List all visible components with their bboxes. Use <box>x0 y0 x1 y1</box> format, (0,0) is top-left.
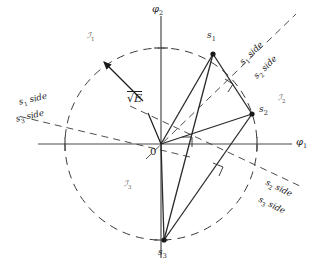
point-s1 <box>210 51 215 56</box>
region-label-3: ℐ3 <box>124 180 132 190</box>
point-label-s3: s3 <box>158 248 167 259</box>
chord-s2-s3 <box>164 114 252 240</box>
point-label-s1: s1 <box>207 31 216 42</box>
vector-s1 <box>161 54 213 144</box>
energy-label: √E <box>126 93 142 104</box>
figure-canvas <box>0 0 319 271</box>
origin-label: 0 <box>150 147 156 157</box>
point-label-s2: s2 <box>259 105 268 116</box>
energy-radicand: √E <box>126 92 142 105</box>
vector-s2 <box>161 114 252 144</box>
phi1-axis-label: φ1 <box>296 137 307 150</box>
phi2-axis-label: φ2 <box>152 4 163 17</box>
point-s2 <box>249 111 254 116</box>
point-s3 <box>161 237 166 242</box>
boundary-s1-s2 <box>146 14 296 159</box>
chord-s3-s1 <box>164 54 213 240</box>
right-angle-mark-s2-s3 <box>213 163 223 176</box>
region-label-2: ℐ2 <box>278 94 286 104</box>
signal-constellation-figure: φ2 φ1 0 s1 s2 s3 √E s1 side s2 side s1 s… <box>0 0 319 271</box>
region-label-1: ℐ1 <box>87 32 95 42</box>
